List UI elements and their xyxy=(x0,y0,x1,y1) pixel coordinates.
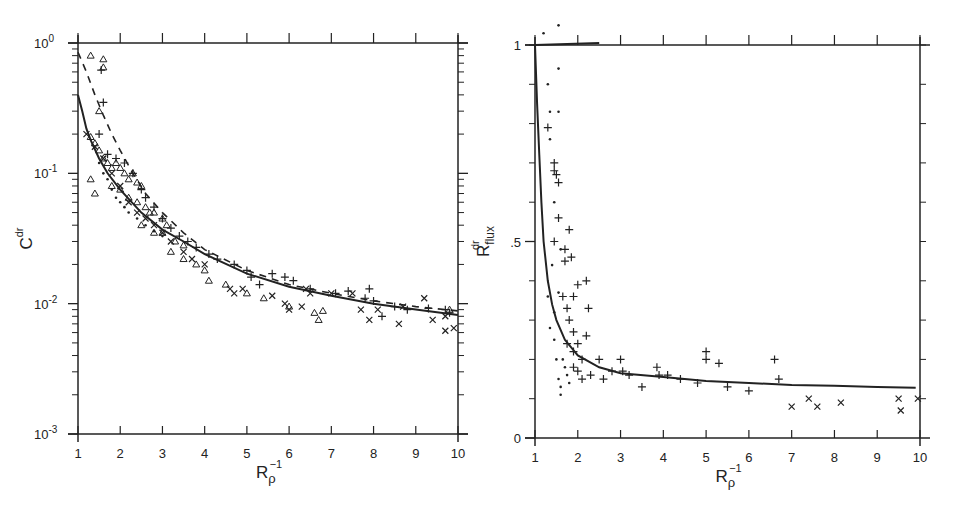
data-point-cross xyxy=(134,210,140,216)
data-point-plus xyxy=(378,312,386,320)
data-point-plus xyxy=(175,232,183,240)
data-point-triangle xyxy=(100,56,107,62)
data-point-dot xyxy=(557,67,560,70)
data-point-cross xyxy=(181,249,187,255)
x-tick-label: 8 xyxy=(370,446,377,461)
data-point-triangle xyxy=(205,277,212,283)
data-point-dot xyxy=(557,378,560,381)
data-point-dot xyxy=(549,327,552,330)
curve-dashed-fit xyxy=(78,52,458,311)
data-point-plus xyxy=(599,375,607,383)
y-tick-label: 10-3 xyxy=(34,424,58,442)
data-point-triangle xyxy=(134,179,141,185)
data-point-dot xyxy=(549,138,552,141)
x-tick-label: 7 xyxy=(788,450,795,465)
data-point-plus xyxy=(344,287,352,295)
y-axis-label: Rfluxdr xyxy=(469,226,497,257)
x-tick-label: 4 xyxy=(660,450,667,465)
y-tick-label: .5 xyxy=(510,235,521,250)
data-point-plus xyxy=(97,66,105,74)
data-point-dot xyxy=(547,83,550,86)
data-point-triangle xyxy=(91,190,98,196)
data-point-plus xyxy=(775,375,783,383)
data-point-triangle xyxy=(311,309,318,315)
x-axis-label: Rρ−1 xyxy=(716,462,742,490)
data-point-plus xyxy=(555,179,563,187)
data-point-cross xyxy=(451,325,457,331)
data-point-plus xyxy=(771,355,779,363)
figure: 1234567891010010-110-210-3Rρ−1Cdr 123456… xyxy=(0,0,959,513)
x-tick-label: 8 xyxy=(831,450,838,465)
data-point-plus xyxy=(724,383,732,391)
y-tick-label: 1 xyxy=(514,38,521,53)
data-point-cross xyxy=(396,321,402,327)
data-point-cross xyxy=(269,293,275,299)
data-point-dot xyxy=(559,386,562,389)
data-point-dot xyxy=(553,201,556,204)
data-point-dot xyxy=(102,172,105,175)
data-point-plus xyxy=(584,304,592,312)
data-point-cross xyxy=(189,256,195,262)
data-point-triangle xyxy=(138,222,145,228)
data-point-plus xyxy=(559,293,567,301)
data-point-plus xyxy=(574,367,582,375)
data-point-plus xyxy=(625,371,633,379)
data-point-cross xyxy=(299,304,305,310)
data-point-triangle xyxy=(134,199,141,205)
data-point-triangle xyxy=(87,176,94,182)
data-point-dot xyxy=(553,338,556,341)
data-point-plus xyxy=(676,375,684,383)
data-point-dot xyxy=(123,206,126,209)
data-point-plus xyxy=(95,130,103,138)
data-point-cross xyxy=(898,407,904,413)
data-point-dot xyxy=(119,201,122,204)
data-point-plus xyxy=(582,277,590,285)
data-point-triangle xyxy=(87,52,94,58)
series-plus xyxy=(544,124,783,395)
data-point-plus xyxy=(555,214,563,222)
data-point-cross xyxy=(421,295,427,301)
data-point-plus xyxy=(715,359,723,367)
data-point-dot xyxy=(136,217,139,220)
data-point-plus xyxy=(565,316,573,324)
x-tick-label: 6 xyxy=(285,446,292,461)
data-point-dot xyxy=(564,366,567,369)
data-point-dot xyxy=(555,358,558,361)
data-point-dot xyxy=(115,196,118,199)
data-point-cross xyxy=(789,404,795,410)
data-point-dot xyxy=(161,235,164,238)
data-point-plus xyxy=(565,226,573,234)
plot-frame xyxy=(68,35,468,442)
data-point-triangle xyxy=(142,204,149,210)
data-point-cross xyxy=(838,400,844,406)
data-point-plus xyxy=(289,277,297,285)
data-point-triangle xyxy=(163,222,170,228)
x-tick-label: 5 xyxy=(243,446,250,461)
data-point-triangle xyxy=(260,295,267,301)
y-tick-label: 100 xyxy=(34,33,54,51)
x-tick-label: 1 xyxy=(74,446,81,461)
data-point-plus xyxy=(150,203,158,211)
data-point-plus xyxy=(256,281,264,289)
y-tick-label: 0 xyxy=(514,431,521,446)
data-point-dot xyxy=(547,295,550,298)
data-point-plus xyxy=(281,273,289,281)
data-point-plus xyxy=(268,270,276,278)
data-point-dot xyxy=(559,393,562,396)
x-tick-label: 3 xyxy=(159,446,166,461)
y-tick-label: 10-2 xyxy=(34,294,58,312)
data-point-triangle xyxy=(180,256,187,262)
data-point-plus xyxy=(638,383,646,391)
data-point-plus xyxy=(595,355,603,363)
data-point-triangle xyxy=(125,176,132,182)
data-point-dot xyxy=(553,311,556,314)
data-point-plus xyxy=(365,285,373,293)
series-cross xyxy=(789,396,921,414)
data-point-plus xyxy=(99,98,107,106)
x-tick-label: 9 xyxy=(874,450,881,465)
x-tick-label: 10 xyxy=(913,450,927,465)
data-point-plus xyxy=(702,355,710,363)
data-point-plus xyxy=(617,355,625,363)
data-point-dot xyxy=(106,178,109,181)
y-tick-label: 10-1 xyxy=(34,163,58,181)
